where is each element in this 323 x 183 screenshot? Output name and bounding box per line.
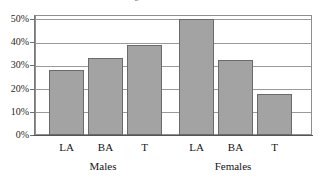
- x-axis-label-females-t: T: [257, 142, 292, 153]
- x-axis-label-males-la: LA: [49, 142, 84, 153]
- bar-chart: e 50% 40% 30% 20% 10% 0% LA BA T LA BA T…: [0, 0, 323, 183]
- group-label-females: Females: [198, 161, 268, 172]
- group-label-males: Males: [68, 161, 138, 172]
- y-axis-label-40: 40%: [1, 37, 29, 47]
- bar-males-t: [127, 45, 162, 135]
- bar-females-t: [257, 94, 292, 135]
- y-axis-tick-30: [30, 65, 35, 66]
- x-axis-label-females-ba: BA: [218, 142, 253, 153]
- x-axis-label-males-ba: BA: [88, 142, 123, 153]
- clipped-title-fragment: e: [134, 0, 147, 3]
- y-axis-tick-40: [30, 42, 35, 43]
- x-axis-label-males-t: T: [127, 142, 162, 153]
- clipped-title-text: e: [134, 0, 139, 3]
- bar-males-la: [49, 70, 84, 135]
- x-axis-label-females-la: LA: [179, 142, 214, 153]
- bar-females-ba: [218, 60, 253, 135]
- y-axis-labels: 50% 40% 30% 20% 10% 0%: [0, 0, 29, 183]
- y-axis-label-30: 30%: [1, 60, 29, 70]
- y-axis-tick-20: [30, 89, 35, 90]
- y-axis-label-20: 20%: [1, 84, 29, 94]
- bar-males-ba: [88, 58, 123, 135]
- y-axis-tick-50: [30, 19, 35, 20]
- y-axis-label-10: 10%: [1, 107, 29, 117]
- bar-females-la: [179, 19, 214, 135]
- gridline-50: [36, 19, 311, 20]
- y-axis-line: [34, 15, 35, 136]
- y-axis-tick-10: [30, 112, 35, 113]
- gridline-30: [36, 66, 311, 67]
- y-axis-label-50: 50%: [1, 14, 29, 24]
- x-axis-line: [33, 135, 313, 136]
- y-axis-label-0: 0%: [1, 130, 29, 140]
- gridline-40: [36, 43, 311, 44]
